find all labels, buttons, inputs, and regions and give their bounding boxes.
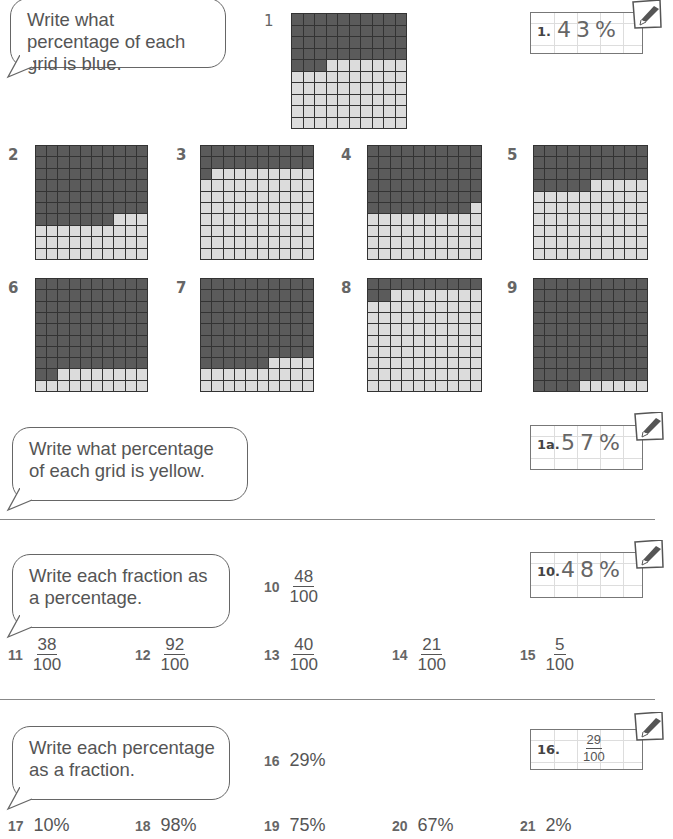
grid-cell [137, 302, 147, 312]
grid-cell [384, 37, 395, 48]
grid-cell [580, 214, 590, 224]
grid-cell [350, 26, 361, 37]
grid-cell [459, 214, 469, 224]
grid-cell [47, 237, 57, 247]
grid-cell [280, 180, 290, 190]
grid-cell [36, 146, 46, 156]
grid-cell [224, 237, 234, 247]
grid-cell [103, 203, 113, 213]
grid-cell [637, 336, 647, 346]
grid-cell [81, 249, 91, 259]
grid-cell [103, 180, 113, 190]
grid-cell [70, 249, 80, 259]
grid-cell [580, 381, 590, 391]
grid-cell [81, 237, 91, 247]
grid-cell [291, 369, 301, 379]
grid-cell [580, 203, 590, 213]
grid-cell [602, 347, 612, 357]
grid-cell [471, 203, 481, 213]
grid-cell [436, 203, 446, 213]
grid-cell [212, 347, 222, 357]
grid-cell [224, 369, 234, 379]
grid-cell [580, 369, 590, 379]
grid-cell [269, 146, 279, 156]
grid-cell [402, 336, 412, 346]
grid-cell [70, 146, 80, 156]
grid-cell [534, 169, 544, 179]
grid-cell [379, 324, 389, 334]
grid-cell [137, 347, 147, 357]
grid-cell [103, 226, 113, 236]
grid-cell [414, 369, 424, 379]
grid-cell [47, 169, 57, 179]
grid-cell [114, 214, 124, 224]
grid-cell [568, 249, 578, 259]
grid-cell [212, 313, 222, 323]
grid-cell [258, 324, 268, 334]
grid-cell [391, 157, 401, 167]
grid-cell [580, 358, 590, 368]
grid-cell [637, 290, 647, 300]
grid-cell [602, 358, 612, 368]
grid-cell [126, 226, 136, 236]
grid-cell [425, 358, 435, 368]
grid-cell [70, 192, 80, 202]
grid-cell [137, 279, 147, 289]
grid-cell [70, 347, 80, 357]
grid-cell [201, 290, 211, 300]
item-number: 11 [8, 647, 23, 663]
grid-cell [137, 336, 147, 346]
grid-cell [557, 381, 567, 391]
grid-cell [361, 106, 372, 117]
grid-cell [258, 290, 268, 300]
instruction-text: Write each fraction as a percentage. [29, 565, 208, 608]
grid-cell [292, 72, 303, 83]
grid-cell [568, 192, 578, 202]
grid-cell [414, 192, 424, 202]
grid-cell [591, 313, 601, 323]
grid-cell [379, 336, 389, 346]
grid-cell [361, 37, 372, 48]
hundred-grid [533, 145, 648, 260]
grid-cell [246, 302, 256, 312]
grid-cell [58, 214, 68, 224]
grid-cell [327, 83, 338, 94]
grid-cell [70, 279, 80, 289]
grid-cell [368, 324, 378, 334]
grid-cell [291, 279, 301, 289]
grid-cell [114, 237, 124, 247]
grid-cell [384, 49, 395, 60]
grid-cell [625, 369, 635, 379]
grid-cell [402, 214, 412, 224]
grid-cell [327, 118, 338, 129]
grid-cell [350, 83, 361, 94]
grid-cell [114, 290, 124, 300]
example-fraction: 29 100 [583, 733, 605, 764]
item-number: 14 [392, 647, 408, 663]
grid-cell [36, 369, 46, 379]
grid-cell [557, 347, 567, 357]
grid-cell [103, 192, 113, 202]
grid-cell [402, 157, 412, 167]
grid-cell [114, 169, 124, 179]
grid-cell [637, 226, 647, 236]
grid-cell [92, 302, 102, 312]
grid-cell [47, 358, 57, 368]
grid-cell [391, 302, 401, 312]
grid-cell [103, 324, 113, 334]
question-number: 2 [8, 146, 18, 164]
example-answer: 48% [561, 557, 625, 582]
grid-cell [114, 157, 124, 167]
grid-cell [602, 381, 612, 391]
grid-cell [591, 290, 601, 300]
grid-cell [459, 381, 469, 391]
grid-cell [534, 214, 544, 224]
fraction: 92 100 [161, 636, 189, 673]
grid-cell [545, 369, 555, 379]
grid-cell [436, 226, 446, 236]
grid-cell [591, 226, 601, 236]
grid-cell [292, 37, 303, 48]
grid-cell [545, 358, 555, 368]
grid-cell [545, 169, 555, 179]
grid-cell [459, 290, 469, 300]
